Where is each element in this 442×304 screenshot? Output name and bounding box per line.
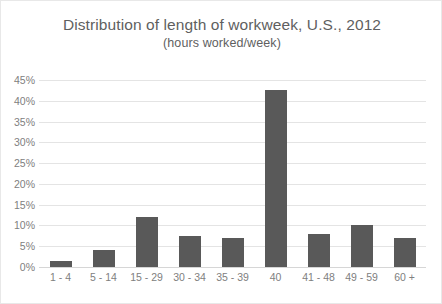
x-axis-tick-label: 35 - 39 — [216, 271, 249, 283]
bar — [265, 90, 287, 267]
y-axis-tick-label: 45% — [14, 74, 35, 86]
y-axis-tick-label: 5% — [20, 240, 35, 252]
y-axis-tick-label: 20% — [14, 178, 35, 190]
bar — [351, 225, 373, 267]
y-axis-tick-label: 25% — [14, 157, 35, 169]
chart-title: Distribution of length of workweek, U.S.… — [1, 15, 442, 35]
x-axis-tick-label: 5 - 14 — [90, 271, 117, 283]
x-axis-tick-label: 30 - 34 — [173, 271, 206, 283]
bar-series — [39, 80, 426, 267]
x-axis-tick-label: 15 - 29 — [130, 271, 163, 283]
bar — [50, 261, 72, 267]
y-axis-tick-label: 35% — [14, 116, 35, 128]
y-axis-tick-label: 10% — [14, 219, 35, 231]
gridline — [39, 267, 426, 268]
x-axis-tick-labels: 1 - 45 - 1415 - 2930 - 3435 - 394041 - 4… — [39, 271, 426, 291]
y-axis-tick-label: 0% — [20, 261, 35, 273]
x-axis-tick-label: 49 - 59 — [345, 271, 378, 283]
bar — [179, 236, 201, 267]
y-axis-tick-label: 30% — [14, 136, 35, 148]
chart-container: Distribution of length of workweek, U.S.… — [0, 0, 442, 304]
x-axis-tick-label: 41 - 48 — [302, 271, 335, 283]
chart-title-block: Distribution of length of workweek, U.S.… — [1, 15, 442, 52]
chart-subtitle: (hours worked/week) — [1, 35, 442, 52]
bar — [308, 234, 330, 267]
y-axis-tick-label: 15% — [14, 199, 35, 211]
x-axis-tick-label: 1 - 4 — [50, 271, 71, 283]
bar — [394, 238, 416, 267]
bar — [222, 238, 244, 267]
bar — [136, 217, 158, 267]
x-axis-tick-label: 40 — [270, 271, 282, 283]
y-axis-tick-labels: 0%5%10%15%20%25%30%35%40%45% — [1, 80, 35, 267]
y-axis-tick-label: 40% — [14, 95, 35, 107]
bar — [93, 250, 115, 267]
x-axis-tick-label: 60 + — [394, 271, 415, 283]
